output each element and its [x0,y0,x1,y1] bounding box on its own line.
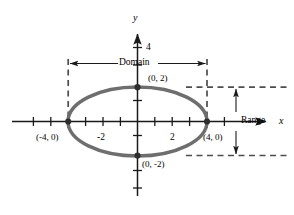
point-0-minus2 [134,152,140,158]
point-0-2 [134,84,140,90]
ellipse-domain-range-figure: y x 4 -2 2 (-4, 0) (4, 0) (0, 2) (0, -2)… [0,0,294,215]
point-label-0-2: (0, 2) [148,74,168,83]
figure-canvas [0,0,294,215]
y-tick-label-4: 4 [146,43,151,53]
point-label-4-0: (4, 0) [203,133,223,142]
x-axis-label: x [279,116,283,126]
x-tick-label-2: 2 [170,133,175,143]
point-4-0 [204,118,210,124]
range-label: Range [241,116,265,126]
point-label-minus4-0: (-4, 0) [36,133,59,142]
point-label-0-minus2: (0, -2) [142,160,165,169]
y-axis-label: y [133,13,137,23]
domain-label: Domain [119,58,150,68]
point-minus4-0 [65,118,71,124]
x-tick-label-minus2: -2 [97,133,105,143]
